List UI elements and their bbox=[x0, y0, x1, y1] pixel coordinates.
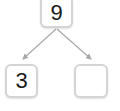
root-node: 9 bbox=[40, 0, 73, 28]
right-child-node-empty[interactable] bbox=[74, 64, 108, 98]
edge-root-to-left bbox=[23, 29, 56, 59]
left-child-value: 3 bbox=[15, 70, 27, 92]
edge-root-to-right bbox=[57, 29, 91, 59]
left-child-node: 3 bbox=[5, 64, 38, 98]
root-node-value: 9 bbox=[50, 2, 62, 24]
